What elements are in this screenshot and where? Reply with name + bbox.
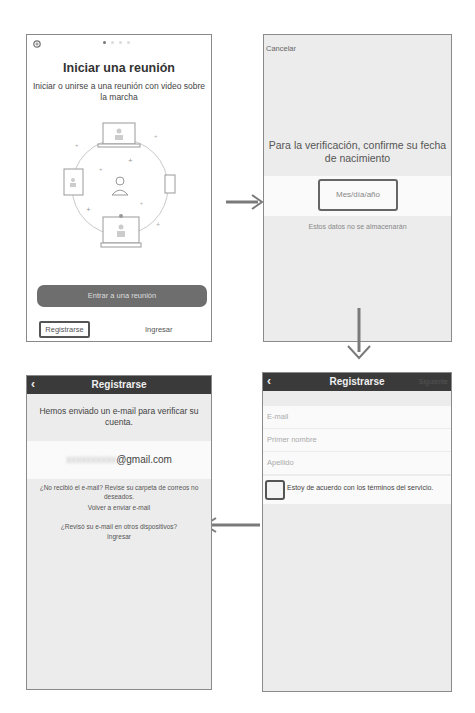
svg-text:+: + — [154, 133, 158, 139]
screen-birthdate: Cancelar Para la verificación, confirme … — [263, 34, 452, 342]
svg-text:+: + — [86, 205, 91, 214]
checked-other-devices-text: ¿Revisó su e-mail en otros dispositivos? — [27, 523, 211, 532]
verification-message: Hemos enviado un e-mail para verificar s… — [33, 406, 205, 428]
page-title: Iniciar una reunión — [27, 61, 211, 75]
screen-start-meeting: Iniciar una reunión Iniciar o unirse a u… — [26, 34, 212, 342]
navbar: ‹ Registrarse Siguiente — [263, 373, 451, 391]
screen-register-form: ‹ Registrarse Siguiente E-mail Primer no… — [262, 372, 452, 692]
not-received-text: ¿No recibió el e-mail? Revise su carpeta… — [27, 484, 211, 501]
page-dot-active[interactable] — [103, 41, 106, 44]
page-dot[interactable] — [111, 41, 114, 44]
resend-email-link[interactable]: Volver a enviar e-mail — [27, 504, 211, 513]
navbar: ‹ Registrarse — [27, 376, 211, 394]
login-link[interactable]: Ingresar — [145, 325, 173, 334]
svg-text:+: + — [99, 166, 103, 172]
page-indicator — [103, 41, 130, 44]
join-meeting-button[interactable]: Entrar a una reunión — [37, 285, 207, 307]
arrow-right-icon — [224, 192, 266, 212]
last-name-field[interactable]: Apellido — [263, 452, 451, 474]
email-domain: @gmail.com — [116, 454, 172, 465]
verification-prompt: Para la verificación, confirme su fecha … — [264, 139, 451, 165]
date-row: Mes/día/año — [264, 176, 451, 216]
devices-illustration: + + + + + + + — [61, 121, 179, 251]
svg-text:+: + — [75, 142, 79, 148]
login-link[interactable]: Ingresar — [27, 533, 211, 542]
page-dot[interactable] — [127, 41, 130, 44]
navbar-title: Registrarse — [27, 379, 211, 390]
terms-row: Estoy de acuerdo con los términos del se… — [263, 476, 451, 504]
page-subtitle: Iniciar o unirse a una reunión con video… — [29, 81, 209, 103]
email-field[interactable]: E-mail — [263, 406, 451, 428]
cancel-button[interactable]: Cancelar — [266, 44, 296, 53]
email-user-redacted: xxxxxxxxxx — [66, 454, 116, 465]
email-address: xxxxxxxxxx@gmail.com — [27, 454, 211, 465]
register-button[interactable]: Registrarse — [39, 321, 90, 338]
arrow-down-icon — [344, 306, 374, 362]
screen-email-sent: ‹ Registrarse Hemos enviado un e-mail pa… — [26, 375, 212, 690]
svg-text:+: + — [140, 200, 143, 206]
terms-checkbox[interactable] — [265, 480, 285, 500]
svg-text:+: + — [128, 156, 133, 165]
terms-label[interactable]: Estoy de acuerdo con los términos del se… — [287, 484, 433, 491]
page-dot[interactable] — [119, 41, 122, 44]
birthdate-input[interactable]: Mes/día/año — [318, 179, 398, 211]
first-name-field[interactable]: Primer nombre — [263, 429, 451, 451]
gear-icon[interactable] — [32, 39, 42, 49]
next-button[interactable]: Siguiente — [419, 378, 448, 385]
svg-text:+: + — [156, 221, 160, 228]
email-row: xxxxxxxxxx@gmail.com — [27, 441, 211, 479]
privacy-note: Estos datos no se almacenarán — [264, 223, 451, 230]
